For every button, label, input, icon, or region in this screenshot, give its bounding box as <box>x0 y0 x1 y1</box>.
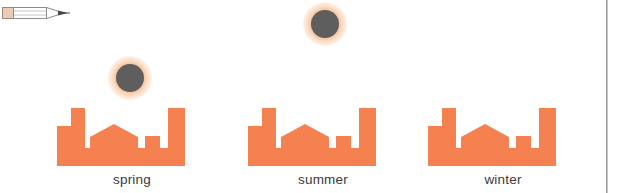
building-winter <box>428 104 578 166</box>
label-winter: winter <box>428 172 578 187</box>
building-summer <box>248 104 398 166</box>
disc-core-icon <box>311 10 339 38</box>
pencil-icon[interactable] <box>2 5 74 21</box>
disc-spring <box>108 56 152 100</box>
right-border-line-shadow <box>607 0 608 193</box>
illustration-canvas: spring summer winter <box>0 0 617 193</box>
disc-summer <box>303 2 347 46</box>
disc-core-icon <box>116 64 144 92</box>
building-spring <box>57 104 207 166</box>
label-spring: spring <box>57 172 207 187</box>
label-summer: summer <box>248 172 398 187</box>
